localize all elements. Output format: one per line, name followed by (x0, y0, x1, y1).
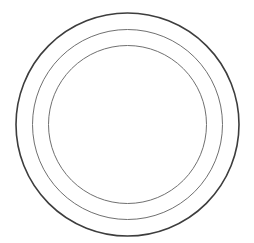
diagram-canvas (0, 0, 254, 243)
concentric-circles-diagram (0, 0, 254, 243)
outer-ring (16, 13, 239, 236)
middle-ring (33, 30, 223, 220)
inner-ring (49, 46, 207, 204)
